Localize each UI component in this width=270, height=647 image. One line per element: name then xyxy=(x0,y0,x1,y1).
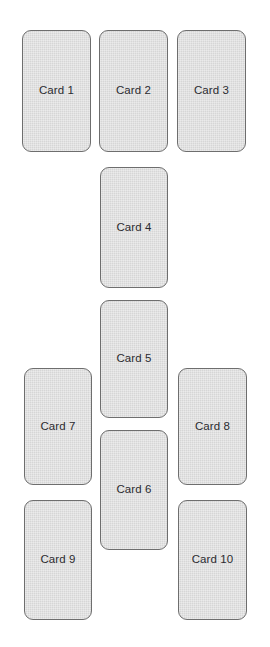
card-item[interactable]: Card 7 xyxy=(24,368,92,485)
card-label: Card 5 xyxy=(116,353,151,365)
card-item[interactable]: Card 4 xyxy=(100,167,168,288)
card-item[interactable]: Card 9 xyxy=(24,500,92,620)
card-label: Card 7 xyxy=(40,421,75,433)
card-label: Card 9 xyxy=(40,554,75,566)
card-label: Card 4 xyxy=(116,222,151,234)
card-item[interactable]: Card 3 xyxy=(177,30,246,152)
card-label: Card 6 xyxy=(116,484,151,496)
card-layout-canvas: Card 1 Card 2 Card 3 Card 4 Card 5 Card … xyxy=(0,0,270,647)
card-item[interactable]: Card 5 xyxy=(100,300,168,418)
card-label: Card 3 xyxy=(194,85,229,97)
card-item[interactable]: Card 6 xyxy=(100,430,168,550)
card-item[interactable]: Card 8 xyxy=(178,368,247,485)
card-item[interactable]: Card 1 xyxy=(22,30,91,152)
card-label: Card 2 xyxy=(116,85,151,97)
card-item[interactable]: Card 2 xyxy=(99,30,168,152)
card-label: Card 10 xyxy=(192,554,234,566)
card-label: Card 1 xyxy=(39,85,74,97)
card-label: Card 8 xyxy=(195,421,230,433)
card-item[interactable]: Card 10 xyxy=(178,500,247,620)
